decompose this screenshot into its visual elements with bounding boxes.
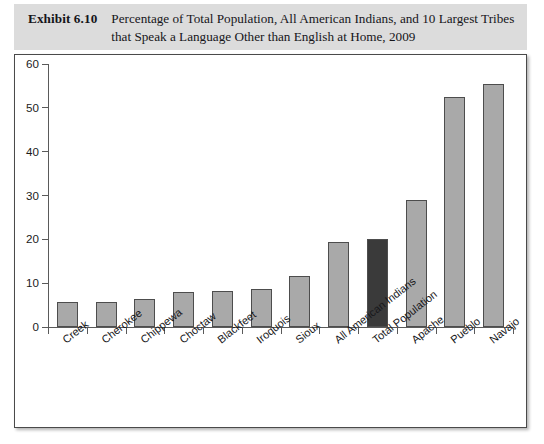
chart-frame: 0102030405060 CreekCherokeeChippewaChoct… — [14, 54, 527, 428]
y-axis-tick — [42, 107, 48, 108]
exhibit-title: Percentage of Total Population, All Amer… — [111, 10, 519, 45]
bar — [328, 242, 349, 327]
bar — [444, 97, 465, 327]
y-axis-tick-label: 20 — [15, 232, 39, 245]
bar — [289, 276, 310, 327]
exhibit-number-label: Exhibit 6.10 — [28, 10, 97, 27]
bar — [212, 291, 233, 327]
bar-chart-plot-area: 0102030405060 CreekCherokeeChippewaChoct… — [15, 55, 528, 429]
y-axis-tick — [42, 64, 48, 65]
y-axis-tick — [42, 151, 48, 152]
y-axis-tick — [42, 283, 48, 284]
y-axis-tick-label: 30 — [15, 189, 39, 202]
x-axis-tick — [48, 328, 49, 334]
bar — [483, 84, 504, 327]
exhibit-header-band: Exhibit 6.10 Percentage of Total Populat… — [14, 4, 527, 50]
y-axis-tick — [42, 195, 48, 196]
bar — [251, 289, 272, 327]
y-axis-tick-label: 50 — [15, 101, 39, 114]
exhibit-page: Exhibit 6.10 Percentage of Total Populat… — [0, 0, 544, 444]
y-axis-tick-label: 40 — [15, 145, 39, 158]
y-axis-tick-label: 60 — [15, 57, 39, 70]
y-axis-line — [48, 64, 49, 328]
y-axis-tick-label: 10 — [15, 276, 39, 289]
y-axis-tick — [42, 239, 48, 240]
y-axis-tick-label: 0 — [15, 320, 39, 333]
